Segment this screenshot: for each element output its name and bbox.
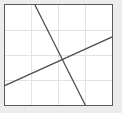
plot-area	[5, 5, 112, 105]
series-layer	[5, 5, 112, 105]
plot-frame	[4, 4, 113, 106]
descending-line	[35, 5, 85, 105]
ascending-line	[5, 37, 112, 86]
chart-screenshot	[0, 0, 122, 113]
